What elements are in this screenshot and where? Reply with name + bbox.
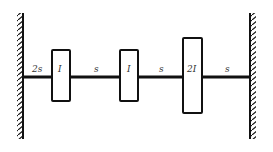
left-wall xyxy=(17,13,23,139)
right-wall xyxy=(250,13,256,139)
disc-2-label: I xyxy=(126,64,131,74)
disc-3 xyxy=(183,38,202,113)
torsional-system-diagram: 2s I s I s 2I s xyxy=(0,0,273,152)
disc-1-label: I xyxy=(57,64,62,74)
shaft-3-label: s xyxy=(159,64,164,74)
shaft-2-label: s xyxy=(94,64,99,74)
disc-1 xyxy=(52,50,70,101)
disc-3-label: 2I xyxy=(186,64,197,74)
shaft-4-label: s xyxy=(225,64,230,74)
shaft-1-label: 2s xyxy=(31,64,43,74)
disc-2 xyxy=(120,50,138,101)
